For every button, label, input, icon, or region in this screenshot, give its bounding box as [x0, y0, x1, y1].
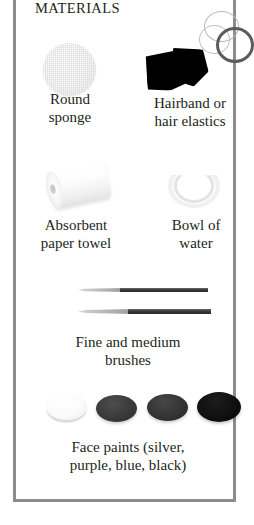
paint-brush-icon — [78, 288, 208, 292]
materials-panel: MATERIALS Round sponge Hairband or hair … — [13, 0, 236, 502]
caption-line: paper towel — [24, 235, 128, 253]
brush-handle — [128, 309, 211, 314]
hair-elastic-ring-icon — [216, 27, 252, 63]
brush-bristle-tip — [78, 288, 124, 292]
caption-line: Hairband or — [134, 95, 246, 113]
paper-towel-caption: Absorbent paper towel — [24, 217, 128, 252]
caption-line: Absorbent — [24, 217, 128, 235]
brushes-caption: Fine and medium brushes — [42, 334, 214, 369]
face-paint-pot-icon-blue — [147, 394, 188, 421]
brush-bristle-tip — [78, 309, 132, 314]
paper-towel-roll-icon — [45, 158, 112, 210]
caption-line: water — [156, 235, 236, 253]
caption-line: purple, blue, black) — [32, 457, 224, 475]
caption-line: sponge — [24, 109, 116, 127]
caption-line: hair elastics — [134, 113, 246, 131]
bowl-top-mask — [164, 158, 226, 175]
hairband-caption: Hairband or hair elastics — [134, 95, 246, 130]
paint-brush-icon — [78, 309, 211, 314]
caption-line: brushes — [42, 352, 214, 370]
caption-line: Round — [24, 91, 116, 109]
face-paint-pot-icon-black — [197, 392, 241, 422]
caption-line: Fine and medium — [42, 334, 214, 352]
caption-line: Face paints (silver, — [32, 439, 224, 457]
round-sponge-caption: Round sponge — [24, 91, 116, 126]
face-paint-pot-icon-purple — [96, 395, 137, 422]
bowl-of-water-icon — [168, 164, 220, 208]
brush-handle — [120, 288, 208, 292]
face-paint-pot-icon-silver — [46, 393, 87, 420]
caption-line: Bowl of — [156, 217, 236, 235]
bowl-of-water-caption: Bowl of water — [156, 217, 236, 252]
face-paints-caption: Face paints (silver, purple, blue, black… — [32, 439, 224, 474]
round-sponge-icon — [43, 43, 96, 96]
page-title: MATERIALS — [35, 0, 120, 17]
